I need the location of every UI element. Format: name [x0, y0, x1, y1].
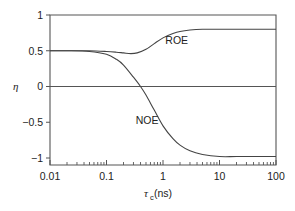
eta-vs-correlation-time-chart: 10.50−0.5−1 0.010.1110100 ROENOE η τ c (…	[0, 0, 295, 211]
x-axis-label-unit: (ns)	[154, 187, 172, 199]
x-tick-label: 0.01	[40, 170, 61, 182]
x-axis-label: τ c (ns)	[144, 187, 172, 202]
y-tick-label: 0	[37, 80, 43, 92]
y-axis-ticks: 10.50−0.5−1	[22, 9, 50, 164]
curve-noe	[50, 51, 276, 157]
y-axis-label: η	[13, 80, 18, 92]
y-tick-label: 0.5	[28, 45, 43, 57]
y-tick-label: −1	[31, 152, 43, 164]
series-label-roe: ROE	[165, 34, 188, 46]
y-tick-label: −0.5	[22, 116, 43, 128]
curve-roe	[50, 29, 276, 53]
x-tick-label: 10	[214, 170, 226, 182]
series-labels: ROENOE	[136, 34, 188, 126]
x-axis-label-symbol: τ	[144, 187, 149, 199]
x-tick-label: 1	[160, 170, 166, 182]
series-label-noe: NOE	[136, 114, 159, 126]
x-axis-ticks: 0.010.1110100	[40, 160, 285, 182]
y-tick-label: 1	[37, 9, 43, 21]
series-curves	[50, 29, 276, 156]
x-tick-label: 0.1	[99, 170, 114, 182]
x-tick-label: 100	[267, 170, 285, 182]
